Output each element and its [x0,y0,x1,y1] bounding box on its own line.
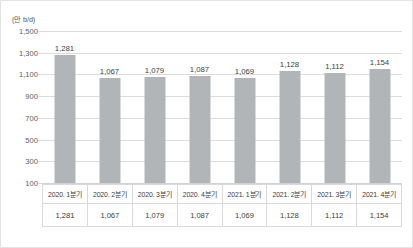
bar [54,55,75,183]
table-cell-value: 1,087 [177,204,222,227]
table-cell-category: 2021. 4분기 [357,185,402,204]
y-axis-tick-label: 1,100 [4,70,38,79]
table-cell-category: 2020. 1분기 [43,185,88,204]
chart-figure: (만 b/d) 1,5001,3001,100900700500300100 1… [0,0,413,248]
table-cell-value: 1,112 [312,204,357,227]
table-cell-category: 2020. 2분기 [87,185,132,204]
bar [324,73,345,183]
bar-value-label: 1,281 [55,44,74,53]
data-table: 2020. 1분기2020. 2분기2020. 3분기2020. 4분기2021… [42,184,402,227]
plot-area: 1,5001,3001,100900700500300100 1,2811,06… [42,31,402,183]
bar-value-label: 1,079 [145,66,164,75]
table-cell-value: 1,069 [222,204,267,227]
bar-slot: 1,128 [267,31,312,183]
table-cell-category: 2021. 3분기 [312,185,357,204]
y-axis-tick-label: 700 [4,113,38,122]
table-cell-category: 2021. 1분기 [222,185,267,204]
bar [144,77,165,183]
bar-slot: 1,087 [177,31,222,183]
bar-value-label: 1,128 [280,60,299,69]
bar-value-label: 1,112 [325,62,344,71]
bar-slot: 1,069 [222,31,267,183]
table-cell-category: 2020. 3분기 [132,185,177,204]
bar [99,78,120,183]
bar [279,71,300,183]
y-axis-tick-label: 1,500 [4,27,38,36]
bar-value-label: 1,069 [235,67,254,76]
table-cell-value: 1,154 [357,204,402,227]
bar-slot: 1,281 [42,31,87,183]
bar-value-label: 1,067 [100,67,119,76]
bar-slot: 1,067 [87,31,132,183]
table-row-values: 1,2811,0671,0791,0871,0691,1281,1121,154 [43,204,402,227]
table-cell-value: 1,128 [267,204,312,227]
bar [189,76,210,183]
table-row-categories: 2020. 1분기2020. 2분기2020. 3분기2020. 4분기2021… [43,185,402,204]
bar-slot: 1,154 [357,31,402,183]
table-cell-category: 2020. 4분기 [177,185,222,204]
bar-slot: 1,079 [132,31,177,183]
y-axis-tick-label: 100 [4,179,38,188]
table-cell-value: 1,281 [43,204,88,227]
bar-value-label: 1,087 [190,65,209,74]
y-axis-tick-label: 300 [4,157,38,166]
y-axis-tick-label: 900 [4,92,38,101]
bar-series: 1,2811,0671,0791,0871,0691,1281,1121,154 [42,31,402,183]
bar [234,78,255,183]
table-cell-value: 1,067 [87,204,132,227]
y-axis-tick-label: 1,300 [4,48,38,57]
bar-value-label: 1,154 [370,58,389,67]
y-axis-tick-label: 500 [4,135,38,144]
table-cell-value: 1,079 [132,204,177,227]
y-axis-unit-label: (만 b/d) [12,14,35,24]
table-cell-category: 2021. 2분기 [267,185,312,204]
bar [369,69,390,183]
bar-slot: 1,112 [312,31,357,183]
